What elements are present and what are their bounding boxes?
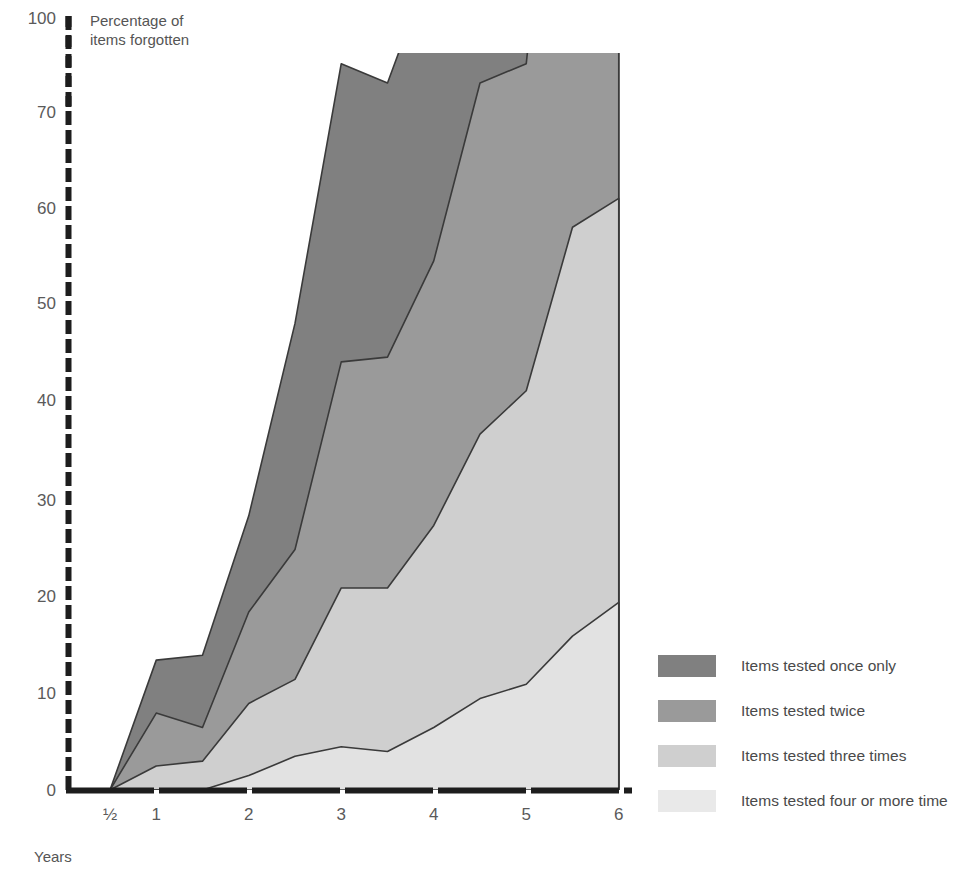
- x-tick-label: ½: [103, 805, 117, 824]
- x-tick-label: 5: [522, 805, 531, 824]
- chart-page: 010203040506070100 ½123456 Percentage of…: [0, 0, 973, 887]
- legend-label: Items tested three times: [741, 747, 907, 764]
- y-axis-caption-line2: items forgotten: [90, 31, 189, 48]
- legend-swatch: [658, 790, 716, 812]
- legend-swatch: [658, 745, 716, 767]
- x-tick-label: 4: [429, 805, 438, 824]
- legend-label: Items tested twice: [741, 702, 865, 719]
- y-tick-label: 0: [47, 781, 56, 800]
- y-tick-label: 60: [37, 199, 56, 218]
- x-tick-label: 3: [337, 805, 346, 824]
- legend-swatch: [658, 655, 716, 677]
- y-tick-label: 100: [28, 9, 56, 28]
- legend-swatch: [658, 700, 716, 722]
- x-tick-label: 6: [614, 805, 623, 824]
- legend-label: Items tested once only: [741, 657, 896, 674]
- y-tick-label: 30: [37, 491, 56, 510]
- x-tick-label: 2: [244, 805, 253, 824]
- y-axis-caption-line1: Percentage of: [90, 12, 184, 29]
- area-chart-figure: 010203040506070100 ½123456 Percentage of…: [0, 0, 973, 887]
- y-tick-label: 40: [37, 391, 56, 410]
- y-tick-label: 70: [37, 103, 56, 122]
- y-tick-label: 10: [37, 684, 56, 703]
- legend-label: Items tested four or more time: [741, 792, 948, 809]
- y-tick-label: 20: [37, 587, 56, 606]
- x-axis-caption: Years: [34, 848, 72, 865]
- y-tick-label: 50: [37, 294, 56, 313]
- x-tick-label: 1: [152, 805, 161, 824]
